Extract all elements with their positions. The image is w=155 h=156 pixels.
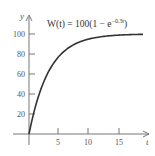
chart: 20 40 60 80 100 5 10 15 y t W(t) = 100(1…: [0, 0, 155, 156]
y-tick-label: 100: [13, 30, 25, 39]
curve-w-of-t: [29, 34, 143, 134]
x-tick-label: 10: [84, 138, 92, 147]
x-tick-label: 5: [56, 138, 60, 147]
x-ticks: [58, 128, 119, 134]
y-tick-label: 20: [17, 110, 25, 119]
x-tick-label: 15: [115, 138, 123, 147]
y-ticks: [29, 34, 35, 114]
y-tick-label: 80: [17, 50, 25, 59]
y-tick-label: 60: [17, 70, 25, 79]
y-axis-label: y: [19, 11, 24, 21]
formula-label: W(t) = 100(1 − e−0.3t): [47, 18, 127, 30]
x-axis-label: t: [146, 137, 149, 147]
y-tick-label: 40: [17, 90, 25, 99]
